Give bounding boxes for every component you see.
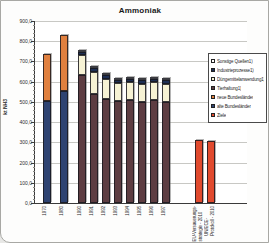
legend-label: Düngemittelanwendung1) [217, 77, 264, 82]
x-tick-label: 1996 [149, 206, 155, 216]
legend-swatch [211, 59, 215, 63]
y-minor-tick [33, 195, 35, 196]
x-tick-label: 1995 [137, 206, 143, 216]
y-minor-tick [33, 70, 35, 71]
legend-swatch [211, 86, 215, 90]
y-minor-tick [33, 130, 35, 131]
y-minor-tick [33, 45, 35, 46]
bar-1995 [138, 78, 146, 203]
y-minor-tick [33, 191, 35, 192]
bar-segment-düngemittelanwendung1 [162, 84, 170, 102]
y-minor-tick [33, 106, 35, 107]
x-tick-label: 1993 [113, 206, 119, 216]
y-minor-tick [33, 175, 35, 176]
y-minor-tick [33, 86, 35, 87]
y-minor-tick [33, 114, 35, 115]
bar-1992 [102, 73, 110, 203]
legend-item-alte-bundesländer: alte Bundesländer [211, 102, 264, 110]
y-minor-tick [33, 25, 35, 26]
y-minor-tick [33, 90, 35, 91]
legend-item-neue-bundesländer: neue Bundesländer [211, 93, 264, 101]
bar-segment-alte-bundesländer [43, 101, 51, 203]
y-tick-label: 900,0 [3, 18, 32, 24]
bar-segment-tierhaltung1 [78, 75, 86, 204]
legend-label: Ziele [217, 113, 226, 118]
bar-segment-düngemittelanwendung1 [138, 84, 146, 102]
bar-segment-tierhaltung1 [102, 99, 110, 203]
y-tick-label: 600,0 [3, 79, 32, 85]
y-minor-tick [33, 126, 35, 127]
x-tick-label: 1992 [101, 206, 107, 216]
x-tick-label: 1991 [89, 206, 95, 216]
y-major-tick [31, 203, 35, 204]
legend-label: Sonstige Quellen1) [217, 59, 253, 64]
bar-1997 [162, 78, 170, 203]
bar-segment-düngemittelanwendung1 [114, 83, 122, 101]
legend-swatch [211, 104, 215, 108]
x-tick-label: 1970 [42, 206, 48, 216]
y-tick-label: 100,0 [3, 180, 32, 186]
y-minor-tick [33, 110, 35, 111]
x-tick-label: EU-Versauerungs- strategie - 2010 [192, 206, 203, 241]
y-tick-label: 200,0 [3, 160, 32, 166]
legend-label: Industrieprozesse1) [217, 68, 254, 73]
bar-segment-tierhaltung1 [138, 102, 146, 203]
chart-title: Ammoniak [34, 6, 246, 15]
y-minor-tick [33, 74, 35, 75]
bar-segment-tierhaltung1 [150, 100, 158, 203]
bar-segment-düngemittelanwendung1 [102, 79, 110, 99]
y-tick-label: 0,0 [3, 200, 32, 206]
y-minor-tick [33, 199, 35, 200]
legend-swatch [211, 95, 215, 99]
bar-segment-düngemittelanwendung1 [78, 55, 86, 74]
y-tick-label: 500,0 [3, 99, 32, 105]
y-major-tick [31, 142, 35, 143]
y-minor-tick [33, 171, 35, 172]
y-minor-tick [33, 57, 35, 58]
bar-segment-ziele [195, 140, 203, 203]
bar-segment-neue-bundesländer [43, 54, 51, 101]
legend-label: Tierhaltung1) [217, 86, 241, 91]
y-major-tick [31, 61, 35, 62]
y-minor-tick [33, 53, 35, 54]
y-minor-tick [33, 37, 35, 38]
legend-label: alte Bundesländer [217, 104, 251, 109]
bar-segment-alte-bundesländer [60, 91, 68, 203]
y-minor-tick [33, 49, 35, 50]
legend-item-sonstige-quellen1: Sonstige Quellen1) [211, 57, 264, 65]
y-major-tick [31, 82, 35, 83]
bar-segment-tierhaltung1 [114, 101, 122, 203]
y-major-tick [31, 183, 35, 184]
legend-label: neue Bundesländer [217, 95, 253, 100]
x-tick-label: UN/ECE- Protokoll - 2010 [204, 206, 215, 236]
chart-figure: Ammoniak kt NH3 0,0100,0200,0300,0400,05… [0, 0, 269, 243]
y-tick-label: 400,0 [3, 119, 32, 125]
legend-swatch [211, 68, 215, 72]
legend: Sonstige Quellen1)Industrieprozesse1)Dün… [208, 53, 267, 123]
bar-segment-ziele [207, 141, 215, 203]
bar-eu-versauerungs [195, 140, 203, 203]
y-minor-tick [33, 33, 35, 34]
y-minor-tick [33, 98, 35, 99]
y-minor-tick [33, 78, 35, 79]
y-minor-tick [33, 154, 35, 155]
y-major-tick [31, 21, 35, 22]
y-minor-tick [33, 187, 35, 188]
y-minor-tick [33, 150, 35, 151]
y-minor-tick [33, 167, 35, 168]
y-tick-label: 700,0 [3, 58, 32, 64]
bar-segment-düngemittelanwendung1 [150, 82, 158, 100]
y-major-tick [31, 163, 35, 164]
bar-1991 [90, 66, 98, 203]
legend-item-düngemittelanwendung1: Düngemittelanwendung1) [211, 75, 264, 83]
x-tick-label: 1990 [77, 206, 83, 216]
bar-1994 [126, 77, 134, 203]
bar-1970 [43, 54, 51, 203]
bar-1993 [114, 78, 122, 203]
y-minor-tick [33, 29, 35, 30]
x-tick-label: 1994 [125, 206, 131, 216]
x-tick-label: 1997 [161, 206, 167, 216]
y-minor-tick [33, 94, 35, 95]
bar-1996 [150, 77, 158, 203]
x-tick-label: 1980 [59, 206, 65, 216]
